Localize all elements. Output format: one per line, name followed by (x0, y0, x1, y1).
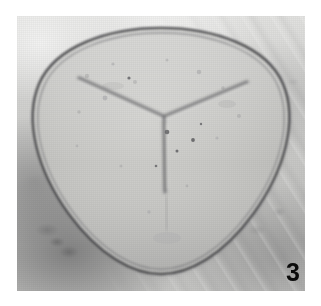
figure-number: 3 (286, 260, 300, 285)
top-cropped-text-strip: py of a spore specimen (0, 0, 321, 13)
film-grain-overlay (17, 16, 305, 291)
photomicrograph-plate: 3 (17, 16, 305, 291)
